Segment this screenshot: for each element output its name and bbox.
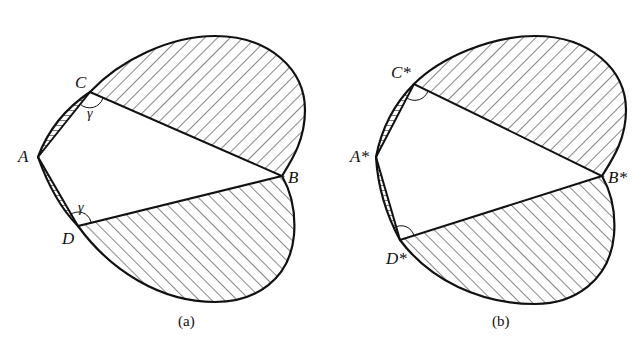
vertex-label-A: A — [17, 147, 29, 166]
vertex-label-A: A* — [349, 147, 369, 166]
angle-label-gamma-C: γ — [87, 106, 93, 121]
caption-b: (b) — [492, 313, 510, 330]
panel-a: A C B D γ γ (a) — [17, 36, 305, 330]
vertex-label-D: D* — [385, 249, 407, 268]
vertex-label-C: C* — [391, 63, 411, 82]
panel-b: A* C* B* D* (b) — [349, 36, 627, 330]
vertex-label-B: B — [288, 168, 299, 187]
upper-hatched-region — [414, 36, 626, 176]
vertex-label-C: C — [75, 73, 87, 92]
vertex-label-D: D — [61, 229, 75, 248]
lower-hatched-region — [400, 176, 614, 304]
lower-hatched-region — [78, 176, 294, 302]
diagram-canvas: A C B D γ γ (a) A* C* B* D* (b) — [0, 0, 643, 360]
caption-a: (a) — [178, 313, 195, 330]
angle-label-gamma-D: γ — [78, 200, 84, 215]
vertex-label-B: B* — [608, 168, 627, 187]
